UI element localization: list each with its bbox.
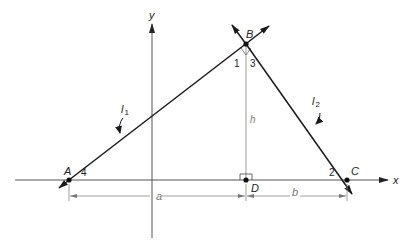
diagram-canvas: x y h A B C D 1 3 2 4 l1 l2 a b	[0, 0, 411, 249]
point-c-label: C	[351, 165, 359, 177]
point-a-label: A	[63, 165, 71, 177]
x-axis-label: x	[392, 174, 399, 186]
y-axis-label: y	[148, 9, 156, 21]
point-d	[243, 177, 248, 182]
point-b-label: B	[246, 28, 253, 40]
line-l1	[69, 26, 269, 180]
dim-a-label: a	[156, 190, 162, 202]
line-l2-extension	[232, 25, 246, 44]
line-l1-label: l1	[121, 103, 129, 117]
point-a	[66, 177, 71, 182]
angle-2-label: 2	[329, 167, 335, 178]
point-c	[344, 177, 349, 182]
dim-b-label: b	[292, 186, 298, 198]
angle-3-label: 3	[250, 58, 256, 69]
triangle-diagram: x y h A B C D 1 3 2 4 l1 l2 a b	[0, 0, 411, 249]
height-label: h	[250, 114, 256, 125]
line-l2-label: l2	[312, 95, 320, 109]
point-b	[243, 41, 248, 46]
line-l1-pointer-arrow	[119, 118, 123, 133]
line-l2	[246, 44, 352, 194]
angle-1-label: 1	[234, 58, 240, 69]
line-l2-pointer-arrow	[316, 113, 320, 124]
angle-4-label: 4	[81, 167, 87, 178]
point-d-label: D	[251, 182, 259, 194]
